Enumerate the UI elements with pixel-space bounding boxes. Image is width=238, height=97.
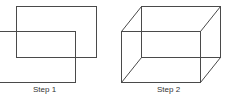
- step1-label: Step 1: [33, 85, 56, 95]
- step2-figure: [122, 7, 221, 83]
- step1-figure: [0, 7, 97, 83]
- diagram-canvas: [0, 0, 238, 97]
- step2-edge-bottom-right: [201, 58, 221, 83]
- step2-edge-top-left: [122, 7, 142, 32]
- step2-edge-top-right: [201, 7, 221, 32]
- step2-edge-bottom-left: [122, 58, 142, 83]
- step2-label: Step 2: [157, 85, 180, 95]
